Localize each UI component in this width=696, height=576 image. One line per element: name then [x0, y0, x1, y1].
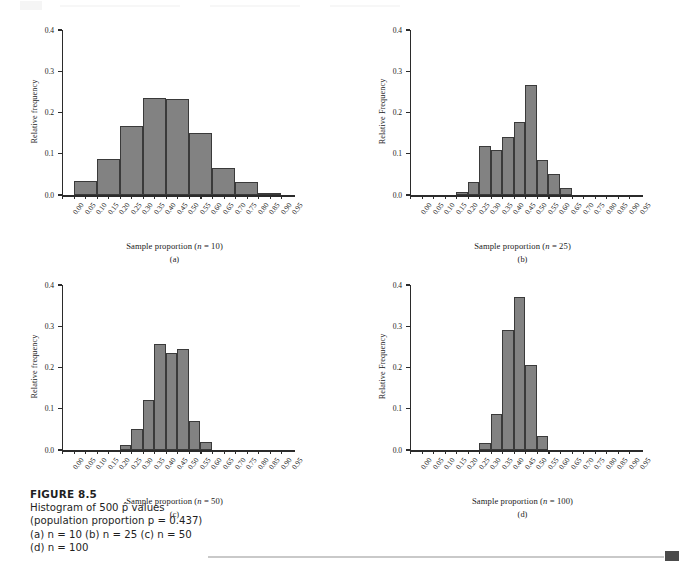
y-tick — [406, 408, 410, 409]
x-tick — [177, 195, 178, 199]
x-tick-label: 0.95 — [638, 201, 653, 216]
x-tick — [62, 450, 63, 454]
x-tick — [410, 195, 411, 199]
x-tick — [525, 450, 526, 454]
y-tick — [406, 367, 410, 368]
x-tick — [629, 450, 630, 454]
y-tick — [406, 326, 410, 327]
histogram-bar — [548, 174, 560, 195]
x-tick — [514, 195, 515, 199]
y-tick — [406, 112, 410, 113]
x-tick — [560, 195, 561, 199]
x-tick — [85, 450, 86, 454]
plot-area-d: 0.00.10.20.30.40.000.050.100.150.200.250… — [410, 285, 635, 450]
x-tick — [468, 450, 469, 454]
histogram-bar — [166, 99, 189, 195]
x-tick — [108, 195, 109, 199]
x-tick — [74, 195, 75, 199]
x-tick — [281, 195, 282, 199]
x-tick — [548, 450, 549, 454]
y-axis-title-c: Relative frequency — [30, 306, 39, 426]
y-tick-label: 0.0 — [380, 446, 402, 455]
x-tick — [445, 450, 446, 454]
x-tick — [491, 450, 492, 454]
y-tick-label: 0.0 — [380, 191, 402, 200]
x-axis-title-a: Sample proportion (n = 10) — [62, 241, 287, 251]
x-tick — [595, 195, 596, 199]
histogram-bar — [74, 181, 97, 195]
histogram-bar — [468, 182, 480, 195]
x-tick — [479, 450, 480, 454]
histogram-bar — [177, 349, 189, 450]
caption-line-3: (a) n = 10 (b) n = 25 (c) n = 50 — [30, 528, 270, 541]
y-axis-line — [410, 285, 411, 450]
histogram-bar — [97, 159, 120, 195]
x-tick — [456, 450, 457, 454]
histogram-bar — [479, 443, 491, 450]
x-tick — [154, 195, 155, 199]
y-tick — [406, 29, 410, 30]
x-axis-title-d: Sample proportion (n = 100) — [410, 496, 635, 506]
histogram-bar — [189, 421, 201, 450]
x-tick — [131, 195, 132, 199]
x-tick — [143, 195, 144, 199]
histogram-bar — [120, 126, 143, 195]
histogram-bar — [525, 85, 537, 195]
plot-area-a: 0.00.10.20.30.40.000.050.100.150.200.250… — [62, 30, 287, 195]
x-tick — [74, 450, 75, 454]
x-tick — [583, 450, 584, 454]
x-tick — [422, 195, 423, 199]
y-tick — [58, 408, 62, 409]
y-tick-label: 0.4 — [380, 281, 402, 290]
x-tick — [247, 450, 248, 454]
x-tick — [62, 195, 63, 199]
header-rule-3 — [330, 5, 400, 7]
x-tick — [143, 450, 144, 454]
y-tick — [58, 153, 62, 154]
x-tick — [258, 195, 259, 199]
x-axis-title-b: Sample proportion (n = 25) — [410, 241, 635, 251]
x-tick — [525, 195, 526, 199]
histogram-bar — [235, 182, 258, 195]
x-tick — [491, 195, 492, 199]
panel-letter-a: (a) — [155, 255, 195, 264]
x-tick — [537, 450, 538, 454]
histogram-bar — [200, 442, 212, 450]
x-tick — [97, 195, 98, 199]
x-tick — [537, 195, 538, 199]
y-tick-label: 0.4 — [32, 281, 54, 290]
histogram-bar — [189, 133, 212, 195]
x-tick-label: 0.95 — [290, 456, 305, 471]
x-tick — [468, 195, 469, 199]
x-tick — [166, 450, 167, 454]
x-tick — [120, 195, 121, 199]
caption-line-4: (d) n = 100 — [30, 541, 270, 554]
histogram-bar — [131, 429, 143, 450]
histogram-bar — [514, 122, 526, 195]
x-tick-label: 0.95 — [290, 201, 305, 216]
x-tick — [410, 450, 411, 454]
y-tick — [406, 71, 410, 72]
x-tick — [131, 450, 132, 454]
x-tick — [177, 450, 178, 454]
x-tick — [422, 450, 423, 454]
x-tick — [200, 195, 201, 199]
x-tick — [235, 195, 236, 199]
x-tick — [618, 195, 619, 199]
histogram-bar — [154, 344, 166, 450]
y-tick — [58, 112, 62, 113]
x-tick — [120, 450, 121, 454]
y-tick-label: 0.0 — [32, 191, 54, 200]
histogram-bar — [502, 137, 514, 195]
x-tick — [618, 450, 619, 454]
x-tick — [479, 195, 480, 199]
x-tick — [189, 450, 190, 454]
x-tick — [572, 195, 573, 199]
histogram-bar — [143, 400, 155, 450]
header-rule-1 — [60, 5, 180, 7]
y-axis-title-a: Relative frequency — [30, 51, 39, 171]
histogram-bar — [479, 146, 491, 196]
histogram-bar — [491, 414, 503, 450]
histogram-bar — [491, 150, 503, 195]
panel-letter-d: (d) — [503, 510, 543, 519]
